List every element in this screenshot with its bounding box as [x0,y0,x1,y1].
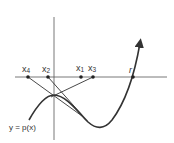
newton-method-diagram: x4 x2 x1 x3 r y = p(x) [0,0,174,143]
point-x1 [79,75,83,79]
curve-p-of-x [29,43,140,127]
label-x4: x4 [22,64,31,74]
tangent-line-x3-x4 [28,77,82,116]
label-x2: x2 [42,64,51,74]
point-x3 [91,75,95,79]
label-curve: y = p(x) [9,123,36,132]
label-x1: x1 [76,63,85,73]
point-root [131,75,135,79]
point-x2 [46,75,50,79]
label-x3: x3 [88,63,97,73]
point-x4 [26,75,30,79]
